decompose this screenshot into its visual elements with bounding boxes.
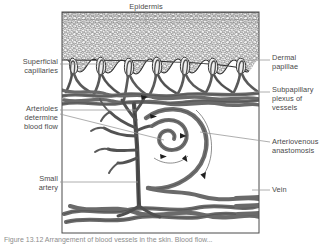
- label-subpapillary-plexus-of-vessels: Subpapillary plexus of vessels: [272, 85, 330, 113]
- label-arterioles-determine-blood-flow: Arterioles determine blood flow: [2, 104, 58, 132]
- label-arteriovenous-anastomosis: Arteriovenous anastomosis: [272, 137, 330, 155]
- label-small-artery: Small artery: [2, 174, 58, 192]
- arteriole-branches: [104, 96, 152, 163]
- figure-skin-blood-supply: Epidermis Superficial capillaries Arteri…: [0, 0, 330, 244]
- vascular-network: [62, 74, 259, 222]
- figure-caption: Figure 13.12 Arrangement of blood vessel…: [4, 236, 326, 244]
- deep-plexus: [64, 188, 259, 222]
- label-dermal-papillae: Dermal papillae: [272, 53, 330, 71]
- label-superficial-capillaries: Superficial capillaries: [2, 57, 58, 75]
- av-anastomosis: [146, 109, 206, 188]
- label-epidermis: Epidermis: [108, 2, 184, 11]
- label-vein: Vein: [272, 185, 330, 194]
